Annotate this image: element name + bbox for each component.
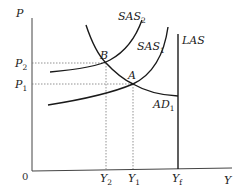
y-axis-label: P: [15, 7, 24, 20]
sas1-label: SAS1: [137, 40, 165, 55]
x-axis-label: Y: [224, 174, 233, 187]
point-b-label: B: [99, 49, 108, 62]
yf-label: Yf: [172, 172, 183, 187]
x-axis: [32, 168, 232, 171]
y1-label: Y1: [128, 172, 140, 187]
las-label: LAS: [181, 34, 205, 47]
sas2-label: SAS2: [118, 10, 146, 25]
p2-label: P2: [14, 57, 27, 72]
y2-label: Y2: [100, 172, 112, 187]
point-a-label: A: [127, 69, 136, 82]
p1-label: P1: [14, 78, 27, 93]
ad1-label: AD1: [152, 98, 175, 113]
sas2-curve: [50, 20, 142, 72]
origin-label: 0: [22, 171, 28, 182]
as-ad-diagram: P Y 0 P2 P1 Y2 Y1 Yf SAS2 SAS1 LAS AD1 B…: [0, 0, 249, 193]
